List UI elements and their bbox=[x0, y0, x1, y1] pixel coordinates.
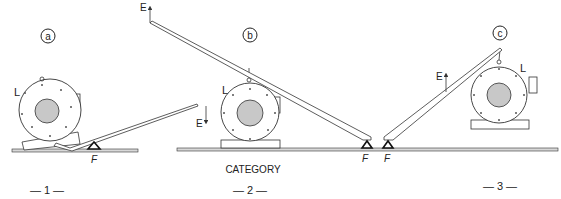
panel-number-2: — 2 — bbox=[233, 184, 267, 196]
effort-label-3: E bbox=[436, 71, 443, 82]
effort-label-1: E bbox=[196, 118, 203, 129]
badge-c: c bbox=[498, 28, 503, 39]
motor-3 bbox=[471, 50, 537, 123]
load-label-3: L bbox=[520, 62, 526, 74]
panel-1: E L F a — 1 — bbox=[12, 29, 206, 196]
motor-2 bbox=[221, 68, 280, 141]
panel-2: E F L b CATEGORY — 2 — bbox=[140, 2, 372, 196]
effort-label-2: E bbox=[140, 2, 147, 13]
fulcrum-label-3: F bbox=[384, 153, 391, 164]
panel-3: E F L c — 3 — bbox=[383, 26, 537, 192]
panel-number-1: — 1 — bbox=[30, 184, 64, 196]
lever-diagram: E L F a — 1 — E F L b bbox=[0, 0, 561, 199]
motor-1 bbox=[19, 77, 81, 141]
fulcrum-label-1: F bbox=[91, 154, 98, 165]
badge-a: a bbox=[45, 31, 51, 42]
load-label-1: L bbox=[14, 86, 20, 98]
fulcrum-2 bbox=[362, 141, 372, 148]
panel-number-3: — 3 — bbox=[483, 180, 517, 192]
fulcrum-3 bbox=[383, 141, 393, 148]
load-label-2: L bbox=[222, 84, 228, 96]
badge-b: b bbox=[247, 30, 253, 41]
fulcrum-label-2: F bbox=[362, 153, 369, 164]
caption-category: CATEGORY bbox=[225, 164, 281, 175]
